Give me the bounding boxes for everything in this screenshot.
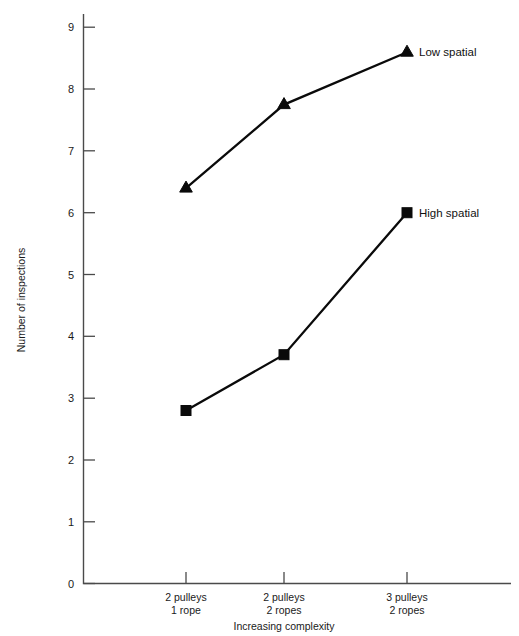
y-tick-label-7: 7 — [68, 145, 74, 157]
y-axis-title: Number of inspections — [15, 248, 27, 352]
chart-background — [0, 0, 519, 636]
series-high-spatial-marker-1 — [181, 406, 191, 416]
series-high-spatial-marker-2 — [279, 350, 289, 360]
x-category-1-line-2: 1 rope — [171, 604, 201, 616]
x-category-1-line-1: 2 pulleys — [165, 591, 206, 603]
line-chart: 0 1 2 3 4 5 6 7 8 9 Number of inspection… — [0, 0, 519, 636]
y-tick-label-2: 2 — [68, 454, 74, 466]
x-category-2-line-1: 2 pulleys — [263, 591, 304, 603]
series-high-spatial-marker-3 — [402, 208, 412, 218]
y-tick-label-8: 8 — [68, 83, 74, 95]
y-axis-title-group: Number of inspections — [15, 248, 27, 352]
y-tick-label-3: 3 — [68, 392, 74, 404]
y-tick-label-9: 9 — [68, 21, 74, 33]
y-tick-label-4: 4 — [68, 330, 74, 342]
x-category-2-line-2: 2 ropes — [266, 604, 301, 616]
y-tick-label-1: 1 — [68, 516, 74, 528]
x-category-3-line-2: 2 ropes — [389, 604, 424, 616]
series-low-spatial-label: Low spatial — [419, 46, 477, 58]
y-tick-label-5: 5 — [68, 269, 74, 281]
series-high-spatial-label: High spatial — [419, 207, 479, 219]
chart-figure: 0 1 2 3 4 5 6 7 8 9 Number of inspection… — [0, 0, 519, 636]
y-tick-label-6: 6 — [68, 207, 74, 219]
x-axis-title: Increasing complexity — [234, 620, 336, 632]
y-tick-label-0: 0 — [68, 578, 74, 590]
x-category-3-line-1: 3 pulleys — [386, 591, 427, 603]
